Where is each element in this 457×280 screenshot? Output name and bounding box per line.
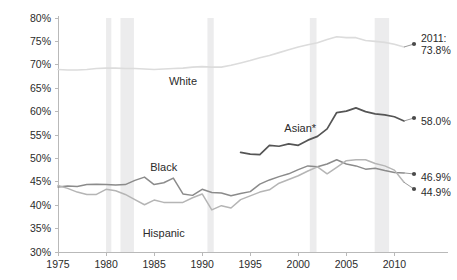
x-tick-label: 1980 <box>94 258 118 270</box>
y-tick-label: 30% <box>30 246 51 258</box>
end-label-value-hispanic: 44.9% <box>421 186 451 198</box>
end-label-year-white: 2011: <box>421 32 447 44</box>
recession-band <box>207 18 213 252</box>
x-axis-tick-labels: 19751980198519901995200020052010 <box>46 252 406 270</box>
y-tick-label: 40% <box>30 199 51 211</box>
end-value-labels: 2011:73.8%58.0%46.9%44.9% <box>404 32 451 198</box>
axes-group <box>58 16 448 252</box>
series-label-white: White <box>169 75 197 87</box>
end-label-value-black: 46.9% <box>421 171 451 183</box>
recession-band <box>120 18 133 252</box>
chart-canvas: 30%35%40%45%50%55%60%65%70%75%80% 197519… <box>0 0 457 280</box>
y-tick-label: 60% <box>30 105 51 117</box>
y-tick-label: 65% <box>30 82 51 94</box>
series-inline-labels: WhiteAsian*BlackHispanic <box>143 75 317 239</box>
series-label-hispanic: Hispanic <box>143 227 186 239</box>
homeownership-rate-chart: 30%35%40%45%50%55%60%65%70%75%80% 197519… <box>0 0 457 280</box>
x-tick-label: 1995 <box>239 258 263 270</box>
y-tick-label: 70% <box>30 58 51 70</box>
y-tick-label: 45% <box>30 175 51 187</box>
y-tick-label: 35% <box>30 222 51 234</box>
end-marker-black <box>412 172 416 176</box>
recession-band <box>106 18 111 252</box>
y-axis-tick-labels: 30%35%40%45%50%55%60%65%70%75%80% <box>30 12 58 258</box>
recession-band <box>375 18 389 252</box>
x-tick-label: 1975 <box>46 258 70 270</box>
end-marker-hispanic <box>412 187 416 191</box>
y-tick-label: 50% <box>30 152 51 164</box>
end-label-value-asian: 58.0% <box>421 115 451 127</box>
end-marker-asian <box>412 116 416 120</box>
x-tick-label: 2000 <box>287 258 311 270</box>
end-marker-white <box>412 42 416 46</box>
end-label-value-white: 73.8% <box>421 44 451 56</box>
y-tick-label: 55% <box>30 129 51 141</box>
x-tick-label: 2010 <box>383 258 407 270</box>
recession-band <box>310 18 317 252</box>
x-tick-label: 2005 <box>335 258 359 270</box>
x-tick-label: 1985 <box>142 258 166 270</box>
recession-bands-group <box>106 18 389 252</box>
x-tick-label: 1990 <box>190 258 214 270</box>
y-tick-label: 80% <box>30 12 51 24</box>
series-label-black: Black <box>150 161 177 173</box>
y-tick-label: 75% <box>30 35 51 47</box>
series-label-asian: Asian* <box>284 122 317 134</box>
